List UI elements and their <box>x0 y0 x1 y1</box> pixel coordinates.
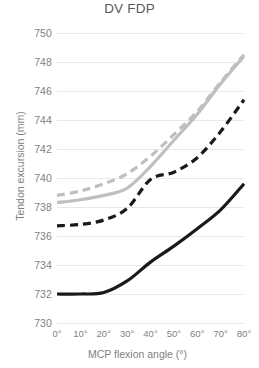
plot-area <box>57 33 244 323</box>
x-tick-label: 60° <box>190 328 204 339</box>
x-tick-label: 70° <box>213 328 227 339</box>
x-tick-label: 40° <box>143 328 157 339</box>
x-tick-label: 0° <box>52 328 61 339</box>
series-lines <box>57 33 244 323</box>
chart-title: DV FDP <box>0 1 259 16</box>
y-tick-label: 738 <box>0 201 52 213</box>
y-tick-label: 736 <box>0 230 52 242</box>
y-tick-label: 730 <box>0 317 52 329</box>
x-tick-label: 50° <box>167 328 181 339</box>
series-line-gray-dashed <box>57 55 244 196</box>
x-tick-label: 10° <box>73 328 87 339</box>
y-tick-label: 742 <box>0 143 52 155</box>
y-tick-label: 746 <box>0 85 52 97</box>
x-tick-label: 20° <box>97 328 111 339</box>
y-tick-label: 740 <box>0 172 52 184</box>
chart-container: DV FDP Tendon excursion (mm) 73073273473… <box>0 0 259 368</box>
x-axis-tick-labels: 0°10°20°30°40°50°60°70°80° <box>57 328 244 344</box>
x-axis-title: MCP flexion angle (°) <box>30 348 245 360</box>
y-tick-label: 748 <box>0 56 52 68</box>
x-tick-label: 80° <box>237 328 251 339</box>
x-tick-label: 30° <box>120 328 134 339</box>
y-axis-tick-labels: 730732734736738740742744746748750 <box>0 33 52 323</box>
gridline <box>57 323 244 324</box>
y-tick-label: 732 <box>0 288 52 300</box>
y-tick-label: 750 <box>0 27 52 39</box>
series-line-black-dashed <box>57 100 244 226</box>
y-tick-label: 744 <box>0 114 52 126</box>
y-tick-label: 734 <box>0 259 52 271</box>
